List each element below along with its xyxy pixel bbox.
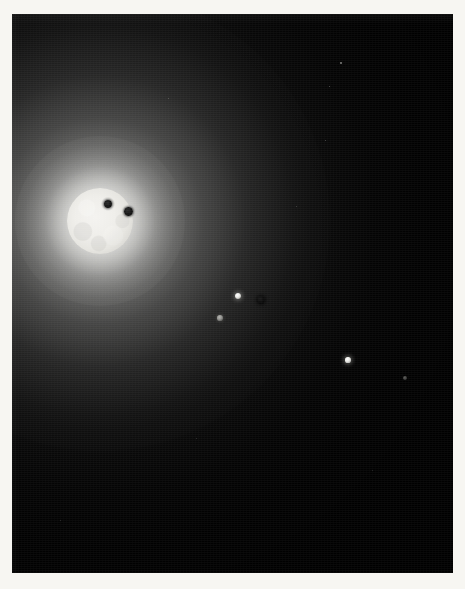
field-star-4 [168,98,169,99]
stellar-halo-mid [12,14,330,451]
field-star-5 [296,206,297,207]
field-star-8 [372,470,373,471]
astronomical-photograph [0,0,465,589]
field-star-7 [60,520,61,521]
field-darkening [12,14,453,573]
transit-spot-1 [104,200,112,208]
field-star-2 [329,86,330,87]
sky-field [12,14,453,573]
body-dim-1 [217,315,222,320]
film-grain-overlay [12,14,453,573]
photosphere-granulation [67,188,133,254]
field-star-1 [340,62,342,64]
body-bright-2 [345,357,350,362]
stellar-halo-outer [12,14,453,573]
body-dark-1 [257,296,264,303]
field-star-3 [325,140,326,141]
field-star-6 [196,438,197,439]
body-bright-1 [235,293,242,300]
transit-spot-2 [124,207,133,216]
print-edge-shading [12,14,453,573]
body-faint-1 [403,376,407,380]
primary-star-disk [67,188,133,254]
